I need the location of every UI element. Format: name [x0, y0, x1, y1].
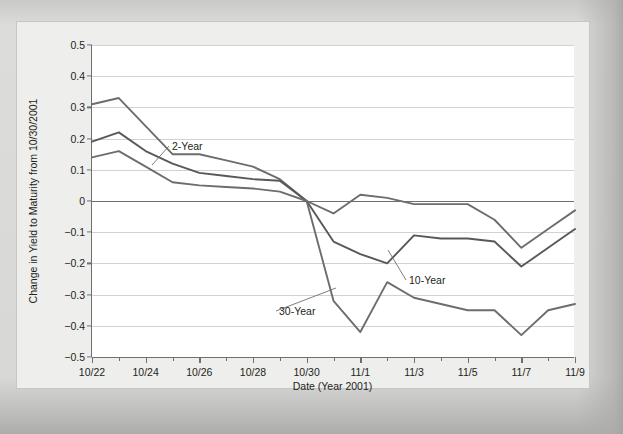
series-label-10-year: 10-Year [409, 274, 445, 286]
x-tick-mark [119, 357, 120, 361]
x-axis-title: Date (Year 2001) [91, 380, 574, 392]
y-tick-label: 0 [79, 195, 85, 207]
x-tick-label: 10/26 [186, 366, 212, 378]
x-tick-mark [307, 357, 308, 363]
x-tick-label: 10/22 [79, 366, 105, 378]
x-tick-mark [468, 357, 469, 363]
x-tick-mark [495, 357, 496, 361]
annotation-leaders [92, 45, 575, 357]
x-tick-label: 10/30 [294, 366, 320, 378]
x-tick-mark [280, 357, 281, 361]
y-tick-label: 0.5 [70, 39, 85, 51]
x-tick-mark [334, 357, 335, 361]
x-tick-label: 11/3 [404, 366, 424, 378]
x-tick-mark [92, 357, 93, 363]
x-tick-mark [521, 357, 522, 363]
series-label-30-year: 30-Year [279, 305, 315, 317]
chart-figure: Change in Yield to Maturity from 10/30/2… [17, 22, 589, 388]
x-tick-mark [226, 357, 227, 361]
x-tick-mark [575, 357, 576, 363]
x-tick-label: 11/9 [565, 366, 585, 378]
x-tick-label: 11/7 [511, 366, 531, 378]
x-tick-label: 11/5 [458, 366, 478, 378]
annotation-leader-line [152, 146, 169, 165]
x-tick-label: 10/28 [240, 366, 266, 378]
x-tick-mark [146, 357, 147, 363]
x-tick-mark [253, 357, 254, 363]
x-tick-mark [414, 357, 415, 363]
x-tick-label: 10/24 [133, 366, 159, 378]
x-tick-mark [360, 357, 361, 363]
x-tick-mark [548, 357, 549, 361]
x-tick-mark [173, 357, 174, 361]
y-tick-label: 0.3 [70, 101, 85, 113]
x-tick-mark [441, 357, 442, 361]
y-tick-label: 0.2 [70, 133, 85, 145]
y-tick-label: −0.2 [64, 257, 85, 269]
x-tick-label: 11/1 [350, 366, 370, 378]
y-axis-title: Change in Yield to Maturity from 10/30/2… [25, 45, 41, 357]
x-tick-mark [387, 357, 388, 361]
y-tick-label: 0.1 [70, 164, 85, 176]
screenshot-root: Change in Yield to Maturity from 10/30/2… [0, 0, 623, 434]
y-tick-label: 0.4 [70, 70, 85, 82]
y-tick-label: −0.4 [64, 320, 85, 332]
y-tick-label: −0.3 [64, 289, 85, 301]
y-tick-label: −0.1 [64, 226, 85, 238]
x-tick-mark [199, 357, 200, 363]
plot-area: 0.50.40.30.20.10−0.1−0.2−0.3−0.4−0.5 10/… [91, 45, 574, 357]
y-tick-label: −0.5 [64, 351, 85, 363]
annotation-leader-line [388, 250, 406, 280]
series-label-2-year: 2-Year [172, 140, 203, 152]
